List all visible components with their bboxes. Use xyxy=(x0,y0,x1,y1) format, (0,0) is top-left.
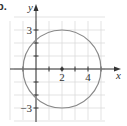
part-label: b. xyxy=(0,0,7,12)
y-axis-arrow-icon xyxy=(34,4,39,11)
x-tick-label: 4 xyxy=(85,71,91,83)
x-tick-label: 2 xyxy=(59,71,65,83)
y-axis-label: y xyxy=(27,1,33,13)
y-tick-label: −3 xyxy=(20,102,32,114)
chart: x y b. 243−3 xyxy=(0,0,127,126)
y-tick-label: 3 xyxy=(27,24,33,36)
x-axis-label: x xyxy=(115,69,121,81)
